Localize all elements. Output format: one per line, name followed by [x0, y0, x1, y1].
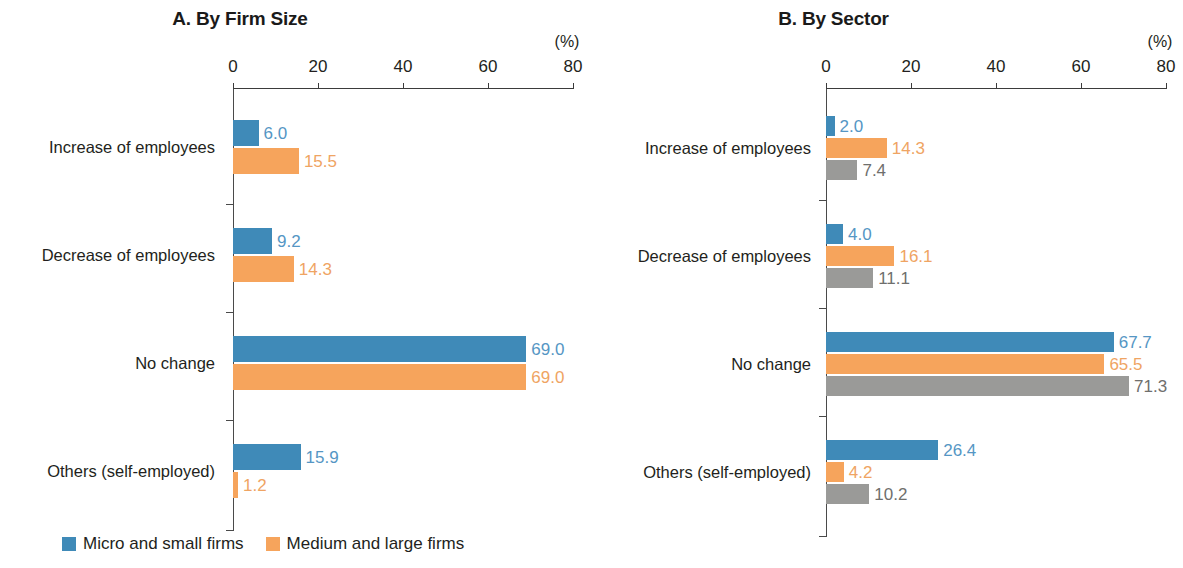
legend-item[interactable]: Micro and small firms	[62, 534, 244, 554]
axis-unit-label: (%)	[1148, 33, 1173, 51]
legend-label: Micro and small firms	[83, 534, 244, 554]
bar[interactable]	[826, 268, 873, 288]
category-label: Others (self-employed)	[643, 463, 811, 482]
bar[interactable]	[233, 336, 526, 362]
bar[interactable]	[826, 376, 1129, 396]
category-label: Increase of employees	[49, 138, 215, 157]
bar-row: 1.2	[233, 472, 267, 498]
category-label: Decrease of employees	[42, 246, 215, 265]
y-axis-tick	[819, 416, 827, 417]
x-axis-tick-label: 20	[902, 57, 921, 77]
bar[interactable]	[826, 116, 835, 136]
x-axis-tick	[1166, 83, 1167, 89]
bar-value-label: 69.0	[531, 369, 564, 386]
bar-value-label: 15.9	[306, 449, 339, 466]
bar[interactable]	[826, 138, 887, 158]
bar-row: 6.0	[233, 120, 287, 146]
x-axis-tick	[488, 83, 489, 89]
bar-value-label: 6.0	[264, 125, 288, 142]
x-axis-tick-label: 0	[228, 57, 237, 77]
bar-row: 15.5	[233, 148, 337, 174]
figure-root: A. By Firm Size 020406080(%)6.015.59.214…	[0, 0, 1183, 568]
bar-row: 11.1	[826, 268, 910, 288]
bar[interactable]	[826, 246, 894, 266]
bar[interactable]	[826, 332, 1114, 352]
bar-value-label: 14.3	[299, 261, 332, 278]
category-label: Decrease of employees	[638, 247, 811, 266]
bar[interactable]	[233, 472, 238, 498]
y-axis-end-tick	[226, 530, 234, 531]
bar-row: 4.2	[826, 462, 872, 482]
bar-row: 9.2	[233, 228, 301, 254]
x-axis-tick	[318, 83, 319, 89]
legend-label: Medium and large firms	[287, 534, 465, 554]
bar[interactable]	[826, 440, 938, 460]
x-axis-tick	[1081, 83, 1082, 89]
x-axis-tick-label: 60	[479, 57, 498, 77]
bar[interactable]	[233, 228, 272, 254]
panel-b-title: B. By Sector	[542, 8, 1125, 30]
bar-value-label: 69.0	[531, 341, 564, 358]
bar-row: 7.4	[826, 160, 886, 180]
bar-row: 16.1	[826, 246, 933, 266]
y-axis-end-tick	[819, 536, 827, 537]
y-axis-tick	[819, 308, 827, 309]
bar-row: 71.3	[826, 376, 1167, 396]
x-axis-tick-label: 40	[987, 57, 1006, 77]
x-axis-tick	[996, 83, 997, 89]
category-label: No change	[731, 355, 811, 374]
y-axis-tick	[226, 420, 234, 421]
y-axis-tick	[226, 312, 234, 313]
category-label: Others (self-employed)	[47, 462, 215, 481]
bar-value-label: 9.2	[277, 233, 301, 250]
x-axis-tick-label: 80	[564, 57, 583, 77]
panel-a-title: A. By Firm Size	[0, 8, 540, 30]
bar-value-label: 16.1	[899, 248, 932, 265]
bar-row: 26.4	[826, 440, 976, 460]
legend-item[interactable]: Medium and large firms	[266, 534, 465, 554]
axis-unit-label: (%)	[555, 33, 580, 51]
bar[interactable]	[233, 120, 259, 146]
bar-row: 10.2	[826, 484, 907, 504]
bar-row: 69.0	[233, 336, 564, 362]
bar[interactable]	[826, 160, 857, 180]
bar-value-label: 14.3	[892, 140, 925, 157]
bar-row: 14.3	[826, 138, 925, 158]
category-label: Increase of employees	[645, 139, 811, 158]
bar[interactable]	[233, 364, 526, 390]
plot-area-b: 020406080(%)2.014.37.44.016.111.167.765.…	[826, 88, 1166, 528]
bar-row: 14.3	[233, 256, 332, 282]
bar-value-label: 4.2	[849, 464, 873, 481]
bar-value-label: 10.2	[874, 486, 907, 503]
bar-value-label: 11.1	[878, 270, 910, 287]
x-axis-tick	[911, 83, 912, 89]
plot-area-a: 020406080(%)6.015.59.214.369.069.015.91.…	[233, 88, 573, 528]
bar[interactable]	[233, 444, 301, 470]
x-axis-tick-label: 80	[1157, 57, 1176, 77]
bar-value-label: 15.5	[304, 153, 337, 170]
bar-row: 4.0	[826, 224, 872, 244]
x-axis-tick-label: 20	[309, 57, 328, 77]
legend-swatch-icon	[266, 537, 280, 551]
x-axis-tick-label: 0	[821, 57, 830, 77]
panel-by-firm-size: A. By Firm Size 020406080(%)6.015.59.214…	[0, 0, 600, 568]
bar-value-label: 7.4	[862, 162, 886, 179]
bar[interactable]	[826, 484, 869, 504]
x-axis-tick	[826, 83, 827, 89]
bar[interactable]	[826, 462, 844, 482]
legend-a: Micro and small firmsMedium and large fi…	[62, 534, 464, 554]
x-axis-tick	[233, 83, 234, 89]
legend-swatch-icon	[62, 537, 76, 551]
panel-by-sector: B. By Sector 020406080(%)2.014.37.44.016…	[600, 0, 1183, 568]
bar[interactable]	[233, 148, 299, 174]
bar-row: 67.7	[826, 332, 1152, 352]
y-axis-tick	[819, 200, 827, 201]
bar-row: 15.9	[233, 444, 339, 470]
bar[interactable]	[826, 354, 1104, 374]
bar-value-label: 71.3	[1134, 378, 1167, 395]
bar-value-label: 65.5	[1109, 356, 1142, 373]
bar[interactable]	[233, 256, 294, 282]
bar-value-label: 67.7	[1119, 334, 1152, 351]
bar-row: 69.0	[233, 364, 564, 390]
bar[interactable]	[826, 224, 843, 244]
